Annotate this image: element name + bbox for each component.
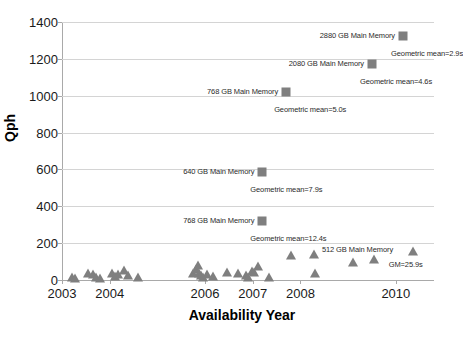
annotation-gm-25-9s: GM=25.9s	[389, 260, 423, 269]
x-tick-mark-2008	[300, 280, 301, 284]
data-point-triangle-10	[123, 271, 133, 280]
data-point-triangle-30	[310, 269, 320, 278]
data-point-triangle-19	[208, 271, 218, 280]
y-tick-label-1200: 1200	[29, 51, 58, 66]
y-tick-mark-200	[58, 243, 62, 244]
annotation-geomean-1: Geometric mean=4.6s	[360, 77, 432, 86]
y-tick-label-200: 200	[36, 236, 58, 251]
y-tick-mark-600	[58, 169, 62, 170]
annotation-geomean-0: Geometric mean=2.9s	[391, 49, 463, 58]
data-point-square-3	[258, 168, 267, 177]
gridline-y-1200	[62, 59, 434, 60]
x-tick-label-2010: 2010	[381, 286, 410, 301]
y-tick-label-600: 600	[36, 162, 58, 177]
x-tick-mark-2003	[62, 280, 63, 284]
data-point-triangle-11	[133, 273, 143, 282]
x-tick-label-2006: 2006	[191, 286, 220, 301]
data-point-triangle-5	[95, 273, 105, 282]
data-point-square-1	[368, 60, 377, 69]
y-tick-mark-1200	[58, 59, 62, 60]
gridline-y-400	[62, 206, 434, 207]
annotation-memory-3: 640 GB Main Memory	[183, 167, 254, 176]
plot-area: 2880 GB Main MemoryGeometric mean=2.9s20…	[62, 22, 434, 280]
y-tick-label-1400: 1400	[29, 15, 58, 30]
annotation-geomean-4: Geometric mean=12.4s	[250, 234, 326, 243]
annotation-memory-1: 2080 GB Main Memory	[289, 59, 364, 68]
data-point-square-0	[399, 31, 408, 40]
x-axis-title: Availability Year	[0, 307, 444, 323]
annotation-memory-512: 512 GB Main Memory	[322, 245, 393, 254]
x-tick-label-2004: 2004	[95, 286, 124, 301]
data-point-square-2	[282, 87, 291, 96]
y-axis-title: Qph	[2, 114, 18, 142]
gridline-y-800	[62, 133, 434, 134]
y-tick-mark-1000	[58, 96, 62, 97]
data-point-triangle-26	[253, 262, 263, 271]
annotation-geomean-2: Geometric mean=5.0s	[274, 105, 346, 114]
data-point-square-4	[258, 217, 267, 226]
gridline-y-200	[62, 243, 434, 244]
gridline-y-1400	[62, 22, 434, 23]
x-tick-label-2008: 2008	[286, 286, 315, 301]
annotation-memory-0: 2880 GB Main Memory	[320, 31, 395, 40]
y-tick-label-1000: 1000	[29, 88, 58, 103]
annotation-geomean-3: Geometric mean=7.9s	[250, 185, 322, 194]
data-point-triangle-1	[70, 274, 80, 283]
data-point-triangle-28	[286, 251, 296, 260]
data-point-triangle-27	[264, 272, 274, 281]
x-tick-label-2007: 2007	[238, 286, 267, 301]
data-point-triangle-20	[222, 267, 232, 276]
data-point-triangle-33	[408, 247, 418, 256]
annotation-memory-2: 768 GB Main Memory	[207, 87, 278, 96]
y-tick-mark-1400	[58, 22, 62, 23]
x-tick-mark-2010	[396, 280, 397, 284]
annotation-memory-4: 768 GB Main Memory	[183, 216, 254, 225]
gridline-y-1000	[62, 96, 434, 97]
y-tick-label-400: 400	[36, 199, 58, 214]
y-tick-mark-800	[58, 133, 62, 134]
data-point-triangle-32	[369, 255, 379, 264]
y-tick-label-800: 800	[36, 125, 58, 140]
x-tick-label-2003: 2003	[48, 286, 77, 301]
data-point-triangle-31	[348, 258, 358, 267]
data-point-triangle-29	[309, 249, 319, 258]
y-tick-mark-400	[58, 206, 62, 207]
